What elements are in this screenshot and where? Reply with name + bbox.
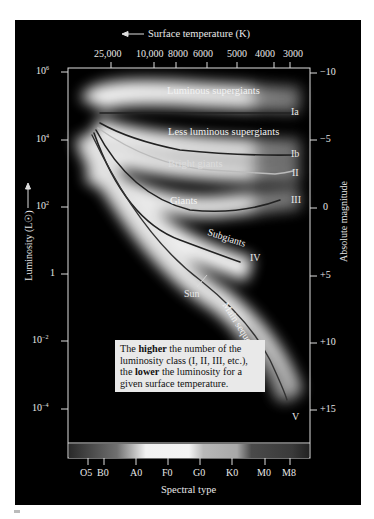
left-ticks <box>61 72 68 409</box>
right-tick-label: +5 <box>320 269 331 280</box>
left-arrow-icon <box>122 32 128 37</box>
left-tick-label: 10−4 <box>32 402 48 413</box>
class-label-ib: Ib <box>291 148 299 159</box>
up-arrow-icon <box>26 183 31 189</box>
label-bright-giants: Bright giants <box>168 158 223 169</box>
top-tick-label: 8000 <box>168 48 188 59</box>
label-luminous-supergiants: Luminous supergiants <box>167 85 260 96</box>
bottom-axis-title: Spectral type <box>161 484 216 495</box>
bottom-tick-label: O5 <box>80 467 92 478</box>
bottom-tick-label: G0 <box>193 467 205 478</box>
bottom-tick-label: K0 <box>226 467 238 478</box>
caption-fragment <box>14 510 20 513</box>
right-tick-label: −5 <box>320 133 331 144</box>
left-tick-label: 104 <box>36 133 49 144</box>
left-axis-title: Luminosity (L☉) <box>23 210 34 282</box>
hr-diagram-graphics <box>0 0 374 519</box>
class-label-ii: II <box>292 167 299 178</box>
left-tick-label: 10−2 <box>32 334 48 345</box>
left-tick-label: 106 <box>36 65 49 76</box>
class-label-v: V <box>292 411 299 422</box>
explanation-note: The higher the number of the luminosity … <box>115 340 265 392</box>
top-ticks <box>111 62 290 68</box>
top-tick-label: 25,000 <box>94 48 122 59</box>
label-sun: Sun <box>184 288 200 299</box>
bottom-tick-label: A0 <box>130 467 142 478</box>
top-tick-label: 4000 <box>255 48 275 59</box>
top-tick-label: 6000 <box>193 48 213 59</box>
bottom-tick-label: F0 <box>162 467 173 478</box>
right-tick-label: +15 <box>320 403 336 414</box>
top-axis-title: Surface temperature (K) <box>148 28 250 39</box>
class-label-ia: Ia <box>291 106 299 117</box>
bottom-tick-label: B0 <box>97 467 109 478</box>
top-tick-label: 3000 <box>283 48 303 59</box>
class-label-iii: III <box>291 194 301 205</box>
label-giants: Giants <box>170 195 197 206</box>
bottom-tick-label: M0 <box>257 467 271 478</box>
top-tick-label: 5000 <box>227 48 247 59</box>
right-tick-label: +10 <box>320 336 336 347</box>
left-tick-label: 1 <box>50 267 55 278</box>
right-axis-title: Absolute magnitude <box>338 177 349 267</box>
right-tick-label: 0 <box>323 201 328 212</box>
top-tick-label: 10,000 <box>136 48 164 59</box>
class-label-iv: IV <box>250 252 261 263</box>
right-tick-label: −10 <box>320 66 336 77</box>
label-less-luminous-supergiants: Less luminous supergiants <box>168 126 279 137</box>
spectral-color-bar <box>69 444 309 458</box>
left-tick-label: 102 <box>36 200 49 211</box>
right-ticks <box>310 73 317 410</box>
bottom-tick-label: M8 <box>282 467 296 478</box>
bottom-ticks <box>88 458 290 465</box>
